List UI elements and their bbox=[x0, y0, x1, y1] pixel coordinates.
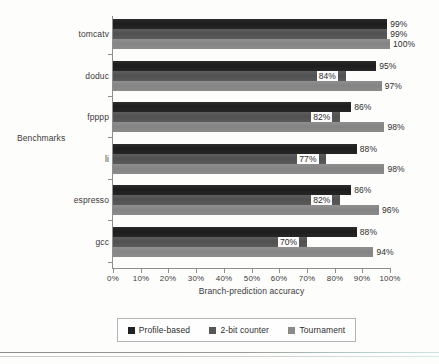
chart-plot-area: Benchmarks Branch-prediction accuracy to… bbox=[0, 0, 439, 348]
chart-page: Benchmarks Branch-prediction accuracy to… bbox=[0, 0, 439, 364]
bar-fpppp-profile-based bbox=[113, 102, 351, 112]
x-axis-tick bbox=[168, 269, 169, 273]
bar-espresso-profile-based bbox=[113, 185, 351, 195]
bar-value-label: 99% bbox=[390, 19, 407, 29]
bar-value-label: 99% bbox=[390, 29, 407, 39]
legend-label: Tournament bbox=[299, 325, 345, 335]
bar-li-tournament bbox=[113, 164, 384, 174]
page-rule-secondary bbox=[0, 356, 439, 357]
bar-espresso-tournament bbox=[113, 205, 379, 215]
x-axis-tick bbox=[279, 269, 280, 273]
x-axis-tick bbox=[390, 269, 391, 273]
y-axis-tick bbox=[108, 262, 113, 263]
x-axis-tick bbox=[196, 269, 197, 273]
bar-tomcatv-tournament bbox=[113, 39, 390, 49]
legend-item[interactable]: 2-bit counter bbox=[209, 325, 269, 335]
bar-tomcatv-profile-based bbox=[113, 19, 387, 29]
y-axis-category-label: espresso bbox=[9, 195, 109, 205]
y-axis-tick bbox=[108, 137, 113, 138]
bar-value-label: 97% bbox=[385, 81, 402, 91]
y-axis-tick bbox=[108, 96, 113, 97]
x-axis-tick bbox=[335, 269, 336, 273]
legend-swatch-icon bbox=[209, 327, 216, 334]
y-axis-category-label: li bbox=[9, 154, 109, 164]
legend-item[interactable]: Profile-based bbox=[128, 325, 190, 335]
y-axis-category-label: fpppp bbox=[9, 112, 109, 122]
bar-value-label: 77% bbox=[297, 154, 318, 164]
x-axis-tick bbox=[307, 269, 308, 273]
y-axis-tick bbox=[108, 179, 113, 180]
legend-item[interactable]: Tournament bbox=[288, 325, 345, 335]
x-axis-tick bbox=[113, 269, 114, 273]
bar-value-label: 88% bbox=[360, 227, 377, 237]
x-axis-tick bbox=[141, 269, 142, 273]
x-axis-tick-label: 100% bbox=[373, 274, 407, 283]
bar-value-label: 95% bbox=[379, 61, 396, 71]
legend-label: 2-bit counter bbox=[220, 325, 269, 335]
bar-value-label: 86% bbox=[354, 185, 371, 195]
bar-value-label: 98% bbox=[387, 164, 404, 174]
bar-gcc-profile-based bbox=[113, 227, 357, 237]
bar-value-label: 86% bbox=[354, 102, 371, 112]
y-axis-category-label: doduc bbox=[9, 71, 109, 81]
bar-espresso-2-bit-counter bbox=[113, 195, 340, 205]
x-axis-tick bbox=[224, 269, 225, 273]
legend-swatch-icon bbox=[288, 327, 295, 334]
bar-value-label: 82% bbox=[311, 195, 332, 205]
x-axis-tick bbox=[362, 269, 363, 273]
y-axis-tick bbox=[108, 54, 113, 55]
bar-value-label: 94% bbox=[376, 247, 393, 257]
bar-fpppp-tournament bbox=[113, 122, 384, 132]
x-axis-tick bbox=[252, 269, 253, 273]
y-axis-tick bbox=[108, 220, 113, 221]
bar-doduc-profile-based bbox=[113, 61, 376, 71]
legend-swatch-icon bbox=[128, 327, 135, 334]
bar-li-2-bit-counter bbox=[113, 154, 326, 164]
bar-li-profile-based bbox=[113, 144, 357, 154]
bar-doduc-tournament bbox=[113, 81, 382, 91]
bar-value-label: 70% bbox=[278, 237, 299, 247]
y-axis-category-label: gcc bbox=[9, 237, 109, 247]
bar-value-label: 82% bbox=[311, 112, 332, 122]
bar-value-label: 84% bbox=[317, 71, 338, 81]
y-axis-labels: tomcatvdoducfppppliespressogcc bbox=[6, 0, 109, 348]
page-rule-primary bbox=[0, 352, 439, 353]
x-axis-title: Branch-prediction accuracy bbox=[112, 286, 391, 296]
bar-value-label: 100% bbox=[393, 39, 415, 49]
bar-doduc-2-bit-counter bbox=[113, 71, 346, 81]
bar-value-label: 88% bbox=[360, 144, 377, 154]
bar-value-label: 96% bbox=[382, 205, 399, 215]
y-axis-category-label: tomcatv bbox=[9, 29, 109, 39]
bar-fpppp-2-bit-counter bbox=[113, 112, 340, 122]
legend-label: Profile-based bbox=[139, 325, 190, 335]
bar-value-label: 98% bbox=[387, 122, 404, 132]
chart-legend: Profile-based2-bit counterTournament bbox=[117, 318, 356, 342]
bar-tomcatv-2-bit-counter bbox=[113, 29, 387, 39]
bar-gcc-tournament bbox=[113, 247, 373, 257]
